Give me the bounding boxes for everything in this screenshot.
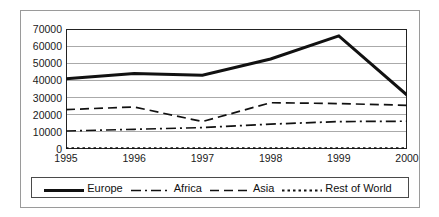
y-tick-label: 40000 xyxy=(6,75,62,85)
legend-label: Africa xyxy=(173,182,208,194)
y-tick-label: 60000 xyxy=(6,41,62,51)
legend-label: Europe xyxy=(86,182,128,194)
legend-item-rest-of-world: Rest of World xyxy=(280,182,397,194)
y-tick-label: 30000 xyxy=(6,93,62,103)
legend-swatch-icon xyxy=(280,182,324,193)
x-tick-label: 1995 xyxy=(54,152,77,164)
x-tick-label: 1997 xyxy=(191,152,214,164)
y-tick-label: 20000 xyxy=(6,110,62,120)
series-line-asia xyxy=(66,103,407,122)
axis-lines xyxy=(66,29,407,149)
legend-label: Rest of World xyxy=(324,182,397,194)
legend-swatch-icon xyxy=(129,182,173,193)
legend-item-europe: Europe xyxy=(42,182,128,194)
line-chart-svg xyxy=(66,29,407,149)
y-tick-label: 70000 xyxy=(6,24,62,34)
gridlines xyxy=(66,29,407,149)
chart-legend: EuropeAfricaAsiaRest of World xyxy=(31,177,409,198)
legend-item-asia: Asia xyxy=(208,182,280,194)
y-axis-tick-labels: 010000200003000040000500006000070000 xyxy=(4,29,62,149)
legend-items: EuropeAfricaAsiaRest of World xyxy=(32,178,408,197)
y-tick-label: 10000 xyxy=(6,127,62,137)
series-line-europe xyxy=(66,36,407,95)
x-tick-label: 1996 xyxy=(123,152,146,164)
plot-area xyxy=(66,29,407,149)
series-line-africa xyxy=(66,121,407,131)
data-series-layer xyxy=(66,36,407,148)
x-axis-tick-labels: 199519961997199819992000 xyxy=(66,152,407,168)
legend-swatch-icon xyxy=(208,182,252,193)
x-tick-label: 2000 xyxy=(395,152,418,164)
y-tick-label: 50000 xyxy=(6,58,62,68)
x-tick-label: 1999 xyxy=(327,152,350,164)
legend-swatch-icon xyxy=(42,182,86,193)
legend-label: Asia xyxy=(252,182,280,194)
chart-figure: 010000200003000040000500006000070000 199… xyxy=(0,0,439,217)
legend-item-africa: Africa xyxy=(129,182,208,194)
x-tick-label: 1998 xyxy=(259,152,282,164)
